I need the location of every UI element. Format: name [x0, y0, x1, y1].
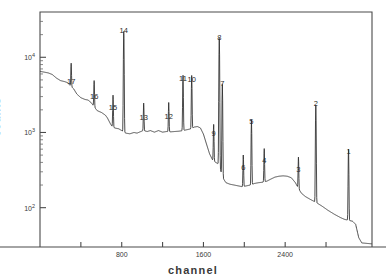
- peak-label-11: 11: [176, 74, 190, 83]
- peak-label-3: 3: [291, 165, 305, 174]
- y-tick-label: 103: [9, 127, 35, 136]
- peak-label-4: 4: [257, 156, 271, 165]
- peak-label-7: 7: [215, 79, 229, 88]
- x-axis-title: channel: [0, 264, 386, 276]
- spectrum-plot-svg: [0, 0, 386, 280]
- peak-label-12: 12: [162, 112, 176, 121]
- peak-label-14: 14: [117, 26, 131, 35]
- x-tick-label: 1600: [190, 251, 216, 258]
- peak-label-5: 5: [244, 117, 258, 126]
- peak-label-15: 15: [106, 103, 120, 112]
- x-tick-label: 2400: [272, 251, 298, 258]
- peak-label-16: 16: [87, 92, 101, 101]
- x-tick-label: 800: [109, 251, 135, 258]
- y-axis-title: counts: [0, 82, 2, 152]
- peak-label-8: 8: [212, 33, 226, 42]
- peak-label-1: 1: [342, 147, 356, 156]
- y-tick-label: 102: [9, 203, 35, 212]
- peak-label-2: 2: [309, 99, 323, 108]
- peak-label-13: 13: [137, 113, 151, 122]
- y-tick-label: 104: [9, 52, 35, 61]
- peak-label-6: 6: [236, 163, 250, 172]
- peak-label-17: 17: [64, 77, 78, 86]
- spectrum-chart-figure: counts channel 10210310480016002400 1234…: [0, 0, 386, 280]
- peak-label-9: 9: [207, 129, 221, 138]
